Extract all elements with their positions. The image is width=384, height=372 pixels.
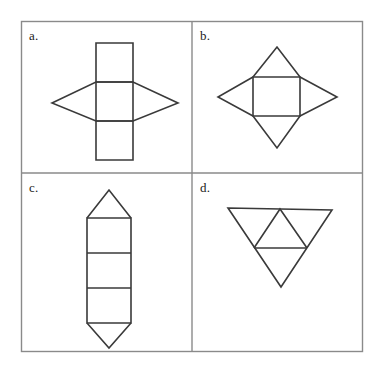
panel-label-a: a. [29,29,38,42]
panel-label-b: b. [200,29,210,42]
panel-b-center-square [253,77,300,116]
panel-b-triangle-top [253,47,300,77]
net-diagram-figure: a. b. c. d. [0,0,384,372]
panel-c-column-outline [87,218,131,323]
net-diagram-canvas [0,0,384,372]
panel-c-net [87,190,131,348]
panel-a-column-outline [96,43,133,160]
panel-d-net [228,208,332,287]
panel-d-inner-triangle-sides [254,209,307,248]
panel-a-rhombus [52,82,178,121]
panel-b-net [218,47,337,148]
panel-c-triangle-top [87,190,131,218]
panel-label-c: c. [29,181,38,194]
panel-a-net [52,43,178,160]
panel-c-triangle-bottom [87,323,131,348]
panel-b-triangle-bottom [253,116,300,148]
panel-b-triangle-right [300,77,337,116]
panel-b-triangle-left [218,77,253,116]
panel-label-d: d. [200,181,210,194]
